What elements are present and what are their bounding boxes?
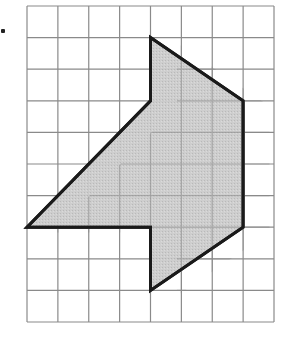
grid-figure	[0, 0, 283, 337]
